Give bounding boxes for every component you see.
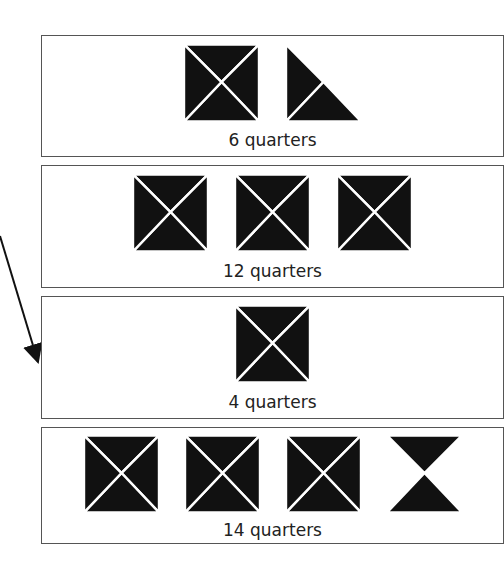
option-card-12-quarters[interactable]: 12 quarters: [41, 165, 504, 288]
quarter-triangle-top: [386, 435, 461, 473]
shape-row: [42, 42, 503, 124]
half-square-icon: [284, 42, 363, 124]
half-square-hourglass-icon: [385, 433, 464, 515]
full-square-icon: [183, 433, 262, 515]
full-square-icon: [131, 172, 210, 254]
quarter-triangle-bottom: [386, 473, 461, 513]
option-card-6-quarters[interactable]: 6 quarters: [41, 35, 504, 157]
full-square-icon: [82, 433, 161, 515]
full-square-icon: [335, 172, 414, 254]
quarters-label: 12 quarters: [42, 261, 503, 281]
shape-row: [42, 172, 503, 254]
option-card-4-quarters[interactable]: 4 quarters: [41, 296, 504, 419]
full-square-icon: [233, 303, 312, 385]
quarters-label: 4 quarters: [42, 392, 503, 412]
quarters-label: 14 quarters: [42, 520, 503, 540]
full-square-icon: [182, 42, 261, 124]
shape-row: [42, 433, 503, 515]
shape-row: [42, 303, 503, 385]
full-square-icon: [233, 172, 312, 254]
quarters-label: 6 quarters: [42, 130, 503, 150]
option-card-14-quarters[interactable]: 14 quarters: [41, 427, 504, 544]
full-square-icon: [284, 433, 363, 515]
